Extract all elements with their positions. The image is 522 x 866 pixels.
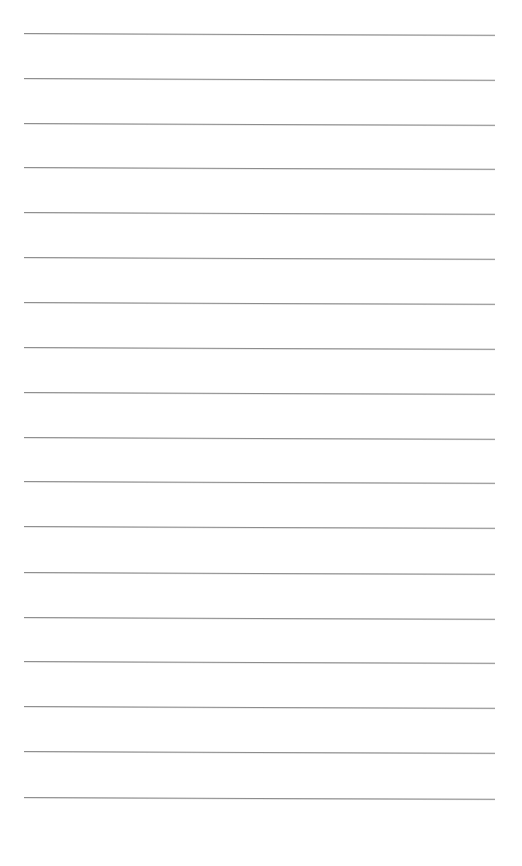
ruled-line [24, 78, 495, 81]
ruled-line [24, 257, 495, 260]
ruled-line [24, 526, 495, 529]
ruled-line [24, 123, 495, 126]
ruled-line [24, 437, 495, 440]
ruled-line [24, 751, 495, 754]
ruled-line [24, 617, 495, 620]
lined-paper-page [0, 0, 522, 866]
ruled-line [24, 661, 495, 664]
ruled-line [24, 33, 495, 36]
ruled-line [24, 392, 495, 395]
ruled-line [24, 167, 495, 170]
ruled-line [24, 481, 495, 484]
ruled-line [24, 347, 495, 350]
ruled-line [24, 706, 495, 709]
ruled-line [24, 797, 495, 800]
ruled-line [24, 302, 495, 305]
ruled-line [24, 572, 495, 575]
ruled-line [24, 212, 495, 215]
